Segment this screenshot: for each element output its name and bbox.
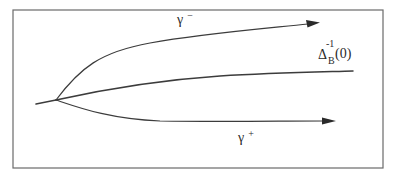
gamma-minus-label: γ − (176, 10, 193, 27)
delta-inverse-subscript: B (328, 55, 335, 66)
delta-inverse-label: Δ (318, 47, 327, 62)
gamma-minus-curve (56, 24, 308, 100)
branching-curves-diagram: γ − Δ -1 B (0) γ + (0, 0, 395, 180)
gamma-minus-arrowhead (306, 20, 320, 28)
delta-inverse-argument: (0) (335, 46, 352, 62)
gamma-plus-arrowhead (322, 118, 336, 125)
gamma-plus-curve (56, 100, 324, 121)
gamma-plus-label: γ + (237, 128, 254, 145)
incoming-stem (36, 100, 56, 104)
diagram-frame (13, 10, 383, 168)
delta-inverse-curve (56, 71, 353, 100)
delta-inverse-superscript: -1 (326, 38, 334, 49)
